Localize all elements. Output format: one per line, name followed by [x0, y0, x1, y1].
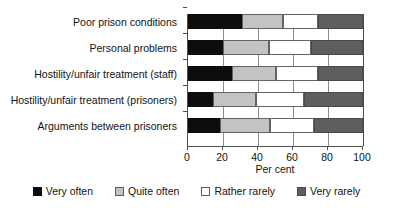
bar-segment — [188, 92, 213, 107]
x-tick-label-60: 60 — [277, 152, 307, 163]
category-label-0: Poor prison conditions — [73, 16, 177, 28]
legend-label: Rather rarely — [214, 186, 275, 197]
bar-segment — [220, 118, 271, 133]
category-axis-labels: Poor prison conditions Personal problems… — [0, 14, 182, 146]
x-tick-label-0: 0 — [172, 152, 202, 163]
x-tick-label-20: 20 — [207, 152, 237, 163]
bar-segment — [188, 66, 232, 81]
category-label-2: Hostility/unfair treatment (staff) — [34, 68, 177, 80]
legend-item-2[interactable]: Rather rarely — [201, 186, 275, 197]
legend-item-3[interactable]: Very rarely — [297, 186, 360, 197]
bar-segment — [314, 118, 363, 133]
bar-3 — [188, 92, 363, 107]
bar-1 — [188, 40, 363, 55]
bar-2 — [188, 66, 363, 81]
legend-item-0[interactable]: Very often — [33, 186, 93, 197]
legend-item-1[interactable]: Quite often — [115, 186, 179, 197]
stacked-bar-chart: Poor prison conditions Personal problems… — [0, 0, 393, 212]
legend-swatch-icon — [201, 187, 210, 196]
legend-label: Very often — [46, 186, 93, 197]
x-tick-60 — [292, 146, 293, 150]
bar-segment — [311, 40, 364, 55]
x-tick-label-100: 100 — [347, 152, 377, 163]
legend-swatch-icon — [297, 187, 306, 196]
category-label-4: Arguments between prisoners — [38, 120, 178, 132]
chart-legend: Very oftenQuite oftenRather rarelyVery r… — [0, 182, 393, 200]
bar-segment — [256, 92, 303, 107]
legend-swatch-icon — [33, 187, 42, 196]
x-axis-label: Per cent — [187, 164, 363, 175]
x-tick-40 — [257, 146, 258, 150]
bar-segment — [232, 66, 276, 81]
bar-segment — [242, 14, 282, 29]
bar-segment — [213, 92, 257, 107]
bar-0 — [188, 14, 363, 29]
legend-label: Very rarely — [310, 186, 360, 197]
bar-segment — [188, 14, 242, 29]
category-label-3: Hostility/unfair treatment (prisoners) — [11, 94, 177, 106]
bar-segment — [304, 92, 364, 107]
x-tick-0 — [187, 146, 188, 150]
plot-wrapper: Poor prison conditions Personal problems… — [0, 0, 393, 175]
y-tick-0 — [183, 7, 187, 8]
bar-segment — [276, 66, 318, 81]
bar-segment — [318, 66, 364, 81]
bar-segment — [318, 14, 364, 29]
plot-area — [187, 14, 364, 146]
x-tick-100 — [362, 146, 363, 150]
x-tick-label-40: 40 — [242, 152, 272, 163]
bar-4 — [188, 118, 363, 133]
legend-swatch-icon — [115, 187, 124, 196]
legend-label: Quite often — [128, 186, 179, 197]
x-axis-line — [187, 146, 363, 147]
bar-segment — [223, 40, 269, 55]
bar-segment — [188, 40, 223, 55]
category-label-1: Personal problems — [89, 42, 177, 54]
x-tick-80 — [327, 146, 328, 150]
x-tick-label-80: 80 — [312, 152, 342, 163]
x-tick-20 — [222, 146, 223, 150]
bar-segment — [283, 14, 318, 29]
bar-segment — [269, 40, 311, 55]
bar-segment — [188, 118, 220, 133]
bar-segment — [270, 118, 314, 133]
